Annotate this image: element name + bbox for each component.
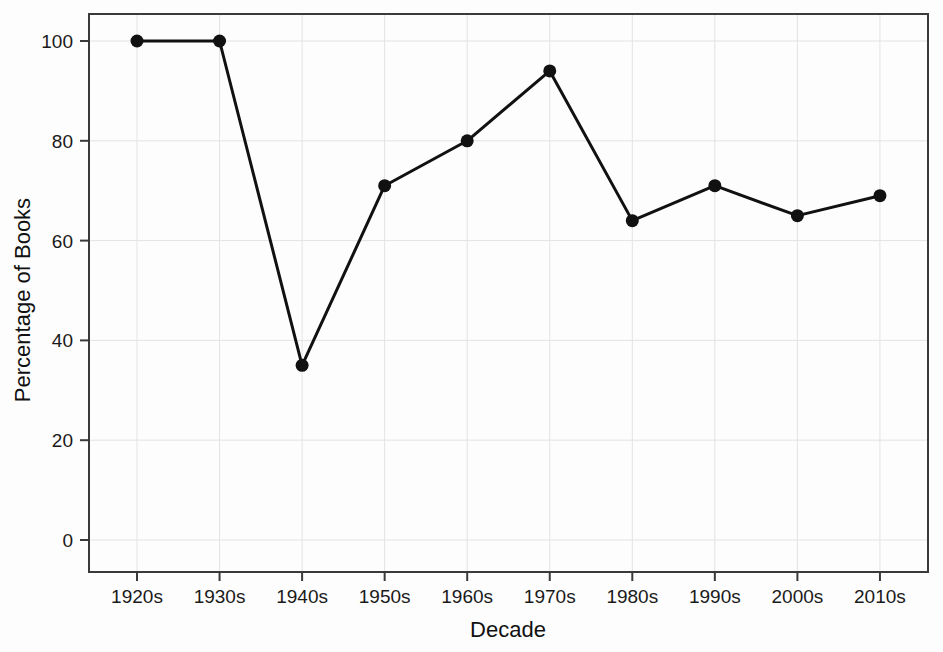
data-point [708,179,721,192]
data-point [791,209,804,222]
data-point [873,189,886,202]
y-tick-label: 20 [52,430,73,451]
y-tick-label: 80 [52,131,73,152]
x-axis-title: Decade [470,617,546,642]
data-point [461,134,474,147]
plot-background [89,14,928,572]
y-tick-label: 0 [62,530,73,551]
x-tick-label: 1970s [524,586,576,607]
x-tick-label: 1920s [111,586,163,607]
x-tick-label: 2000s [772,586,824,607]
data-point [378,179,391,192]
x-tick-label: 2010s [854,586,906,607]
data-point [131,35,144,48]
y-tick-label: 60 [52,231,73,252]
y-tick-label: 40 [52,330,73,351]
x-axis: 1920s1930s1940s1950s1960s1970s1980s1990s… [111,572,906,607]
y-axis: 020406080100 [41,31,89,551]
chart-canvas: 020406080100 1920s1930s1940s1950s1960s19… [0,0,943,652]
y-axis-title: Percentage of Books [10,198,35,402]
x-tick-label: 1940s [276,586,328,607]
line-chart: 020406080100 1920s1930s1940s1950s1960s19… [0,0,943,652]
data-point [213,35,226,48]
x-tick-label: 1990s [689,586,741,607]
x-tick-label: 1930s [194,586,246,607]
x-tick-label: 1950s [359,586,411,607]
data-point [543,64,556,77]
data-point [296,359,309,372]
data-point [626,214,639,227]
x-tick-label: 1960s [441,586,493,607]
x-tick-label: 1980s [606,586,658,607]
y-tick-label: 100 [41,31,73,52]
